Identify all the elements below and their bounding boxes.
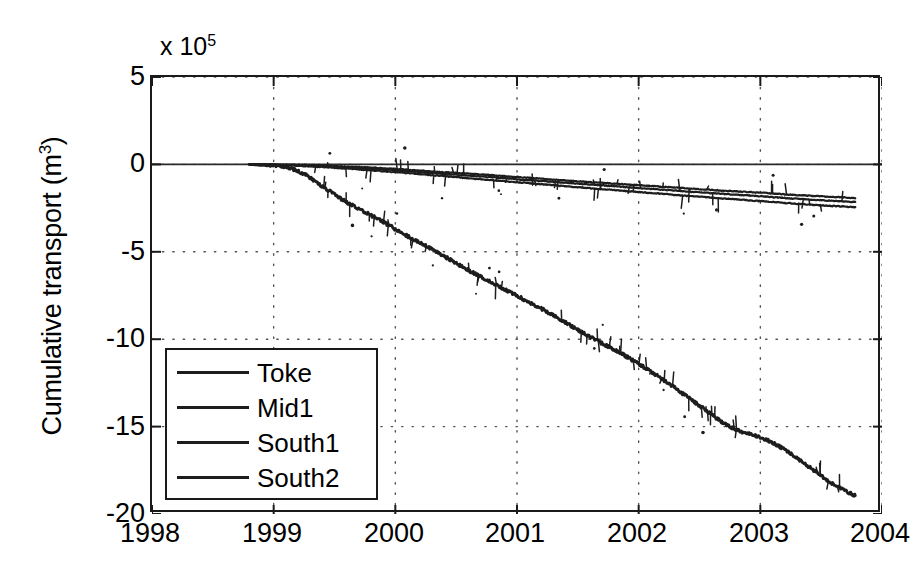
noise-spike xyxy=(838,487,839,492)
noise-spike xyxy=(809,200,810,204)
chart-legend: Toke Mid1 South1 South2 xyxy=(165,348,378,500)
noise-speckle xyxy=(370,235,372,237)
legend-line-toke xyxy=(177,371,249,374)
y-axis-label-base: Cumulative transport (m xyxy=(37,154,67,435)
noise-spike xyxy=(827,482,828,489)
noise-spike xyxy=(633,361,634,370)
noise-speckle xyxy=(800,223,803,226)
noise-spike xyxy=(701,407,702,417)
y-tick-label--10: -10 xyxy=(40,323,145,354)
noise-spike xyxy=(370,170,371,182)
noise-speckle xyxy=(662,389,664,391)
noise-spike xyxy=(650,371,651,374)
noise-spike xyxy=(396,159,397,170)
x-tick-label-2000: 2000 xyxy=(339,518,449,549)
y-tick-label--5: -5 xyxy=(40,236,145,267)
y-tick-label-5: 5 xyxy=(40,61,145,92)
legend-label-south1: South1 xyxy=(257,430,339,456)
noise-spike xyxy=(673,372,674,386)
noise-spike xyxy=(324,177,325,188)
noise-speckle xyxy=(328,152,331,155)
noise-spike xyxy=(681,196,682,209)
y-tick-label--15: -15 xyxy=(40,411,145,442)
noise-speckle xyxy=(475,293,477,295)
noise-spike xyxy=(594,189,595,201)
y-axis-multiplier: x 105 xyxy=(160,32,216,61)
noise-speckle xyxy=(683,415,686,418)
noise-speckle xyxy=(683,212,685,214)
noise-speckle xyxy=(441,197,443,199)
multiplier-base: x 10 xyxy=(160,32,207,60)
legend-item-south1[interactable]: South1 xyxy=(167,425,376,460)
noise-spike xyxy=(501,281,502,288)
noise-spike xyxy=(820,463,821,475)
noise-spike xyxy=(621,339,622,352)
legend-item-south2[interactable]: South2 xyxy=(167,460,376,495)
legend-label-south2: South2 xyxy=(257,465,339,491)
noise-spike xyxy=(387,224,388,235)
noise-artifacts-south2 xyxy=(324,177,840,492)
noise-spike xyxy=(785,184,786,195)
x-tick-label-2001: 2001 xyxy=(460,518,570,549)
legend-line-south2 xyxy=(177,476,249,479)
chart-figure: Cumulative transport (m3) x 105 5 0 -5 -… xyxy=(0,0,923,579)
noise-speckle xyxy=(351,224,355,228)
noise-speckle xyxy=(602,324,604,326)
noise-artifacts-south1 xyxy=(370,146,821,226)
noise-speckle xyxy=(558,197,561,200)
noise-speckle xyxy=(812,214,815,217)
noise-speckle xyxy=(772,174,775,177)
noise-speckle xyxy=(500,193,502,195)
noise-spike xyxy=(408,162,409,173)
noise-spike xyxy=(425,247,426,252)
noise-spike xyxy=(633,185,634,191)
noise-speckle xyxy=(603,168,606,171)
y-axis-label-tail: ) xyxy=(37,136,67,145)
noise-spike xyxy=(736,416,737,429)
noise-speckle xyxy=(403,146,407,150)
noise-spike xyxy=(325,182,326,187)
legend-label-mid1: Mid1 xyxy=(257,395,313,421)
legend-item-toke[interactable]: Toke xyxy=(167,355,376,390)
noise-spike xyxy=(842,192,843,202)
legend-label-toke: Toke xyxy=(257,360,312,386)
noise-speckle xyxy=(396,212,399,215)
x-tick-label-1999: 1999 xyxy=(217,518,327,549)
noise-spike xyxy=(468,263,469,271)
noise-spike xyxy=(816,467,817,472)
x-tick-label-2004: 2004 xyxy=(825,518,923,549)
legend-item-mid1[interactable]: Mid1 xyxy=(167,390,376,425)
noise-spike xyxy=(581,331,582,342)
noise-spike xyxy=(664,370,665,381)
noise-speckle xyxy=(701,431,705,435)
legend-line-south1 xyxy=(177,441,249,444)
x-tick-label-2003: 2003 xyxy=(704,518,814,549)
legend-line-mid1 xyxy=(177,406,249,409)
noise-spike xyxy=(639,354,640,364)
noise-spike xyxy=(640,181,641,188)
x-tick-label-2002: 2002 xyxy=(582,518,692,549)
noise-spike xyxy=(597,189,598,198)
noise-spike xyxy=(374,216,375,226)
x-tick-label-1998: 1998 xyxy=(95,518,205,549)
noise-spike xyxy=(433,175,434,183)
noise-spike xyxy=(609,337,610,346)
noise-spike xyxy=(646,358,647,370)
noise-spike xyxy=(457,166,458,174)
noise-speckle xyxy=(593,347,596,350)
noise-speckle xyxy=(498,189,501,192)
noise-speckle xyxy=(498,270,501,273)
multiplier-exponent: 5 xyxy=(207,32,216,49)
noise-spike xyxy=(617,180,618,184)
noise-spike xyxy=(411,240,412,248)
noise-spike xyxy=(477,274,478,285)
noise-spike xyxy=(532,174,533,184)
noise-speckle xyxy=(361,187,363,189)
noise-spike xyxy=(396,169,397,172)
y-tick-label-0: 0 xyxy=(40,148,145,179)
noise-speckle xyxy=(488,267,491,270)
noise-speckle xyxy=(432,264,434,266)
